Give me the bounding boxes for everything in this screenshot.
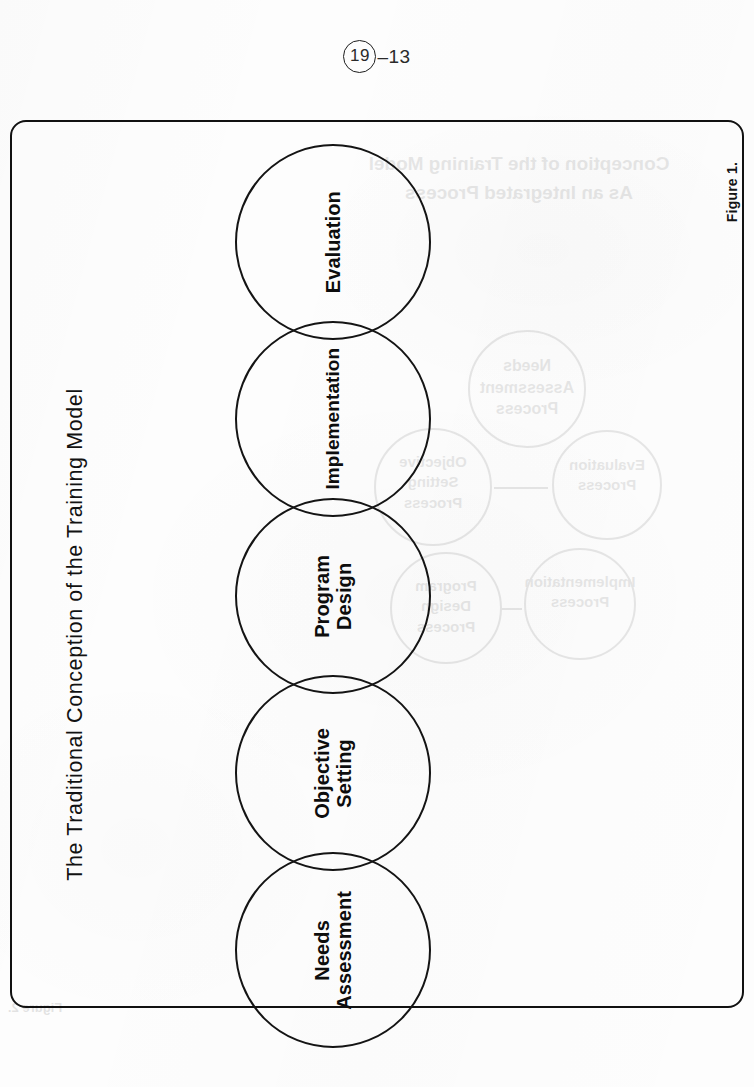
- chain-node-objective-setting: Objective Setting: [235, 675, 431, 871]
- chain-node-implementation: Implementation: [235, 321, 431, 517]
- circle-chain-diagram: Needs Assessment Objective Setting Progr…: [12, 122, 746, 1010]
- chain-node-label: Program Design: [311, 555, 356, 638]
- chain-node-label: Needs Assessment: [311, 891, 356, 1010]
- page-number-suffix: –13: [377, 46, 410, 67]
- chain-node-label: Objective Setting: [311, 728, 356, 819]
- page-number-mark: 19–13: [0, 40, 754, 73]
- chain-node-label: Implementation: [322, 348, 343, 490]
- chain-node-needs-assessment: Needs Assessment: [235, 852, 431, 1048]
- chain-node-program-design: Program Design: [235, 498, 431, 694]
- chain-node-label: Evaluation: [322, 191, 344, 293]
- chain-node-evaluation: Evaluation: [235, 144, 431, 340]
- page-number-circled: 19: [343, 40, 376, 73]
- scanned-page: Conception of the Training Model As an I…: [0, 0, 754, 1087]
- figure-frame: The Traditional Conception of the Traini…: [10, 120, 744, 1008]
